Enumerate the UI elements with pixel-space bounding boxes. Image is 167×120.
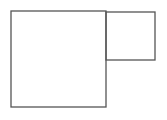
large-square [11, 11, 106, 107]
small-square [106, 12, 155, 60]
diagram-canvas [0, 0, 167, 120]
